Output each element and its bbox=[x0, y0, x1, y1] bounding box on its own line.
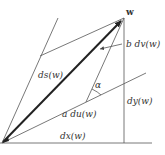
label-dx: dx(w) bbox=[60, 131, 86, 141]
label-a-du: a du(w) bbox=[62, 109, 97, 119]
vector-diagram: w b dv(w) ds(w) α dy(w) a du(w) dx(w) bbox=[0, 0, 165, 155]
v-direction-line bbox=[2, 18, 58, 143]
parallelogram-edge-u bbox=[40, 18, 124, 56]
label-dy: dy(w) bbox=[127, 96, 153, 106]
label-b-dv: b dv(w) bbox=[126, 39, 161, 49]
label-ds: ds(w) bbox=[38, 70, 64, 80]
b-dv-leader-arrow bbox=[100, 44, 122, 49]
label-alpha: α bbox=[95, 80, 101, 90]
label-point-w: w bbox=[125, 7, 134, 17]
ds-vector-arrow bbox=[3, 21, 121, 142]
parallelogram-edge-v bbox=[86, 18, 124, 102]
